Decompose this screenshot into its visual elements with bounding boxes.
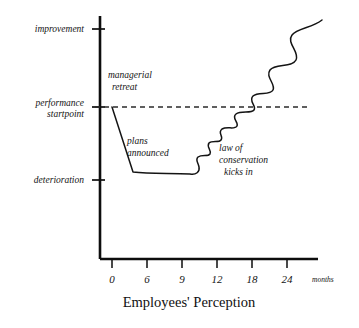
x-tick-label-6: 6	[144, 273, 150, 285]
x-tick-label-24: 24	[282, 273, 294, 285]
annotation-plans-announced-line2: announced	[127, 148, 169, 158]
y-axis-label-deterioration: deterioration	[34, 175, 84, 185]
x-tick-label-0: 0	[109, 273, 115, 285]
x-tick-label-18: 18	[247, 273, 259, 285]
y-axis-label-improvement: improvement	[35, 24, 85, 34]
annotation-law-of-conservation-line3: kicks in	[224, 167, 253, 177]
y-axis-label-performance-line2: startpoint	[47, 109, 84, 119]
chart-title: Employees' Perception	[123, 294, 256, 310]
annotation-law-of-conservation-line1: law of	[219, 143, 244, 153]
chart-canvas: improvement performance startpoint deter…	[0, 0, 359, 328]
y-axis-label-performance-line1: performance	[34, 98, 84, 108]
x-tick-label-12: 12	[212, 273, 224, 285]
annotation-law-of-conservation-line2: conservation	[219, 155, 268, 165]
x-tick-label-9: 9	[179, 273, 185, 285]
annotation-plans-announced-line1: plans	[126, 136, 148, 146]
x-axis-unit-label: months	[312, 275, 334, 284]
annotation-managerial-retreat-line2: retreat	[112, 82, 138, 92]
chart-figure: improvement performance startpoint deter…	[0, 0, 359, 328]
annotation-managerial-retreat-line1: managerial	[108, 70, 152, 80]
